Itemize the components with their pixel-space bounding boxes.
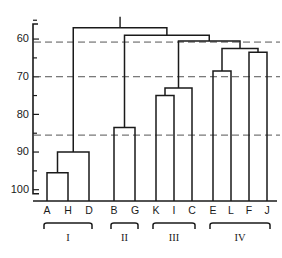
dendrogram-link [114,128,135,201]
cluster-bracket-IV [210,223,270,229]
leaf-label-D: D [85,204,93,216]
dendrogram-link [125,35,210,127]
cluster-label-IV: IV [234,232,245,243]
leaf-label-F: F [246,204,252,216]
leaf-label-J: J [264,204,269,216]
leaf-label-E: E [209,204,216,216]
cluster-label-I: I [66,232,70,243]
cluster-label-II: II [121,232,128,243]
cluster-label-III: III [169,232,180,243]
cluster-bracket-I [44,223,92,229]
dendrogram-canvas: 60708090100 AHDBGKICELFJ IIIIIIIV [0,0,282,258]
leaf-label-I: I [173,204,176,216]
y-axis-tick-label: 100 [11,183,29,195]
y-axis-tick-label: 60 [17,32,29,44]
dendrogram-link [58,152,90,201]
axis-group [33,24,39,194]
leaf-label-B: B [110,204,117,216]
leaf-labels-group: AHDBGKICELFJ [43,204,269,216]
dendrogram-link [73,28,167,152]
leaf-label-A: A [43,204,50,216]
dendrogram-link [249,52,267,201]
dendrogram-links-group [47,17,267,201]
y-axis-tick-label: 70 [17,70,29,82]
leaf-label-L: L [228,204,234,216]
dendrogram-figure: 60708090100 AHDBGKICELFJ IIIIIIIV [0,0,282,258]
cluster-brackets-group [44,223,270,229]
y-axis-tick-label: 90 [17,145,29,157]
leaf-label-H: H [64,204,72,216]
leaf-label-K: K [152,204,159,216]
y-axis-tick-label: 80 [17,108,29,120]
dendrogram-link [156,96,174,201]
y-axis-ticks [33,20,39,189]
cut-lines-group [34,42,280,135]
dendrogram-link [213,71,231,201]
y-axis-tick-labels: 60708090100 [11,32,29,195]
cluster-bracket-III [153,223,195,229]
cluster-labels-group: IIIIIIIV [66,232,246,243]
leaf-label-G: G [131,204,139,216]
dendrogram-link [47,173,68,201]
leaf-label-C: C [188,204,196,216]
dendrogram-link [165,88,192,201]
y-axis-line [33,24,39,194]
cluster-bracket-II [111,223,138,229]
